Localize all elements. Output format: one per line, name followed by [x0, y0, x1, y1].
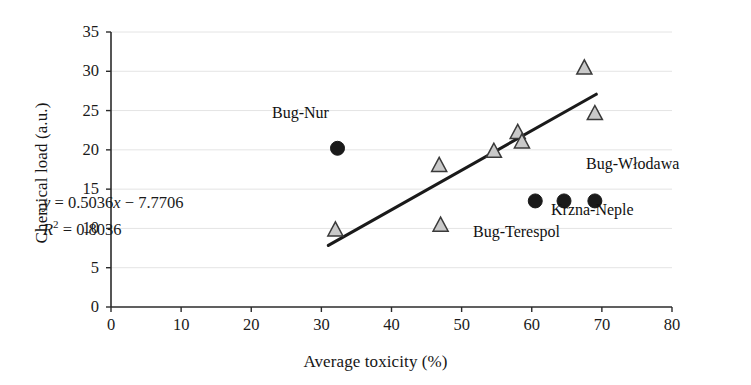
x-tick-label-0: 0	[91, 315, 131, 335]
label-bug-wlodawa: Bug-Włodawa	[586, 155, 679, 173]
x-tick-label-40: 40	[372, 315, 412, 335]
filled-circle-markers-group	[331, 141, 602, 208]
x-tick-label-30: 30	[301, 315, 341, 335]
x-tick-label-70: 70	[582, 315, 622, 335]
x-tick-label-50: 50	[442, 315, 482, 335]
label-krzna-neple: Krzna-Neple	[551, 201, 634, 219]
equation-variable: x	[113, 193, 120, 212]
x-tick-label-80: 80	[652, 315, 692, 335]
data-point-circle-bug-nur	[331, 141, 345, 155]
r-symbol: R	[43, 220, 53, 239]
label-bug-nur: Bug-Nur	[272, 104, 329, 122]
regression-equation: y = 0.5036x − 7.7706	[43, 193, 184, 213]
r-squared-value: R2 = 0.8036	[43, 218, 122, 240]
y-tick-label-35: 35	[59, 22, 99, 42]
data-point-circle-bug-terespol	[528, 194, 542, 208]
data-point-triangle-6	[577, 60, 592, 74]
y-axis-title: Chemical load (a.u.)	[32, 28, 52, 318]
x-tick-label-20: 20	[231, 315, 271, 335]
y-tick-label-5: 5	[59, 258, 99, 278]
data-point-triangle-1	[432, 157, 447, 171]
x-tick-label-10: 10	[161, 315, 201, 335]
x-tick-label-60: 60	[512, 315, 552, 335]
scatter-chart-figure: Average toxicity (%) Chemical load (a.u.…	[0, 0, 751, 385]
y-tick-label-0: 0	[59, 297, 99, 317]
data-point-triangle-2	[433, 217, 448, 231]
x-axis-title: Average toxicity (%)	[0, 352, 751, 372]
label-bug-terespol: Bug-Terespol	[473, 223, 560, 241]
equation-remainder: − 7.7706	[121, 193, 184, 212]
y-tick-label-20: 20	[59, 140, 99, 160]
r-value: = 0.8036	[59, 220, 122, 239]
equation-operator: = 0.5036	[50, 193, 113, 212]
y-tick-label-30: 30	[59, 61, 99, 81]
y-tick-label-25: 25	[59, 101, 99, 121]
data-point-triangle-7	[587, 106, 602, 120]
